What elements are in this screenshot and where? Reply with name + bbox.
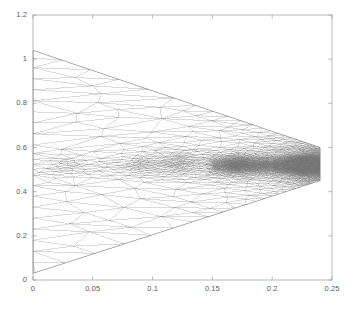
x-tick-label: 0.1 [133, 284, 173, 293]
y-tick-label: 0.4 [0, 187, 27, 196]
mesh-edges [33, 50, 320, 273]
x-tick-label: 0 [13, 284, 53, 293]
x-tick-label: 0.05 [73, 284, 113, 293]
y-tick-label: 0 [0, 275, 27, 284]
y-tick-label: 1.2 [0, 10, 27, 19]
x-tick-label: 0.25 [312, 284, 351, 293]
mesh-triangles [33, 50, 320, 273]
figure-canvas: 00.20.40.60.811.2 00.050.10.150.20.25 [0, 0, 351, 309]
y-tick-label: 0.6 [0, 143, 27, 152]
y-tick-label: 1 [0, 54, 27, 63]
x-tick-label: 0.15 [192, 284, 232, 293]
mesh-plot [0, 0, 351, 309]
y-tick-label: 0.8 [0, 98, 27, 107]
y-tick-label: 0.2 [0, 231, 27, 240]
x-tick-label: 0.2 [252, 284, 292, 293]
